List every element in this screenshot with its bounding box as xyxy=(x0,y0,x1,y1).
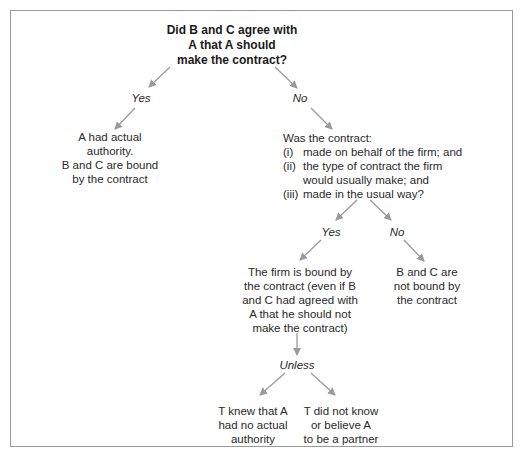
arrow-unless-to-knew xyxy=(260,373,285,395)
arrow-question-to-yes xyxy=(336,200,357,220)
sub-no-label: No xyxy=(390,225,405,239)
question-intro: Was the contract: xyxy=(283,131,462,145)
exception-t-did-not-know: T did not know or believe A to be a part… xyxy=(304,404,379,446)
question-item-ii: (ii) the type of contract the firm xyxy=(283,159,462,173)
branch-yes-label: Yes xyxy=(131,91,150,105)
usual-contract-question: Was the contract: (i) made on behalf of … xyxy=(283,131,462,201)
question-item-iii: (iii) made in the usual way? xyxy=(283,187,462,201)
arrow-no-to-not-bound xyxy=(404,240,424,261)
question-item-i: (i) made on behalf of the firm; and xyxy=(283,145,462,159)
branch-no-label: No xyxy=(293,91,308,105)
outcome-not-bound: B and C are not bound by the contract xyxy=(394,265,461,307)
root-question: Did B and C agree with A that A should m… xyxy=(167,23,298,68)
arrow-unless-to-not-know xyxy=(311,373,335,395)
arrow-root-to-no xyxy=(275,67,297,88)
flow-arrows xyxy=(0,0,527,458)
arrow-yes-to-outcome xyxy=(115,108,135,129)
outcome-firm-bound: The firm is bound by the contract (even … xyxy=(242,265,358,335)
sub-yes-label: Yes xyxy=(321,225,340,239)
unless-label: Unless xyxy=(279,358,314,372)
arrow-question-to-no xyxy=(370,200,391,220)
arrow-yes-to-firm-bound xyxy=(300,240,321,260)
arrow-root-to-yes xyxy=(149,67,170,87)
outcome-actual-authority: A had actual authority. B and C are boun… xyxy=(62,130,159,186)
arrow-no-to-question xyxy=(311,108,332,129)
exception-t-knew: T knew that A had no actual authority xyxy=(218,404,287,446)
